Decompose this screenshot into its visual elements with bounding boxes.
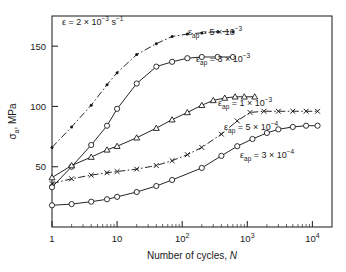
y-axis-label: σa, MPa: [7, 103, 20, 140]
figure-container: 110102103104 50100150 εap = 5 × 10−3εap …: [0, 0, 346, 272]
data-point-marker: [315, 123, 320, 128]
data-point-marker: [250, 136, 255, 141]
data-point-marker: [104, 197, 109, 202]
data-point-marker: [155, 42, 158, 45]
data-point-marker: [290, 124, 295, 129]
data-point-marker: [185, 56, 190, 61]
data-point-marker: [89, 199, 94, 204]
data-point-marker: [115, 194, 120, 199]
data-point-marker: [219, 153, 224, 158]
data-point-marker: [89, 142, 94, 147]
data-point-marker: [70, 125, 73, 128]
data-point-marker: [134, 189, 139, 194]
data-point-marker: [135, 53, 138, 56]
data-point-marker: [303, 123, 308, 128]
data-point-marker: [49, 203, 54, 208]
data-point-marker: [51, 146, 54, 149]
data-point-marker: [276, 127, 281, 132]
data-point-marker: [116, 71, 119, 74]
y-tick-label: 50: [35, 161, 46, 172]
data-point-marker: [69, 201, 74, 206]
data-point-marker: [171, 35, 174, 38]
annotations-group: ε = 2 × 10−3 s−1: [62, 15, 124, 27]
y-tick-label: 150: [30, 41, 46, 52]
x-tick-label: 1: [49, 233, 54, 244]
data-point-marker: [134, 81, 139, 86]
x-tick-label: 10: [112, 233, 123, 244]
y-tick-label: 100: [30, 101, 46, 112]
data-point-marker: [154, 183, 159, 188]
chart-svg: 110102103104 50100150 εap = 5 × 10−3εap …: [0, 0, 346, 272]
data-point-marker: [235, 144, 240, 149]
annotation-strain-rate: ε = 2 × 10−3 s−1: [62, 15, 124, 27]
data-point-marker: [199, 165, 204, 170]
data-point-marker: [154, 64, 159, 69]
x-axis-label: Number of cycles, N: [147, 250, 238, 261]
data-point-marker: [90, 104, 93, 107]
data-point-marker: [170, 59, 175, 64]
data-point-marker: [115, 106, 120, 111]
data-point-marker: [170, 177, 175, 182]
data-point-marker: [106, 83, 109, 86]
data-point-marker: [104, 123, 109, 128]
